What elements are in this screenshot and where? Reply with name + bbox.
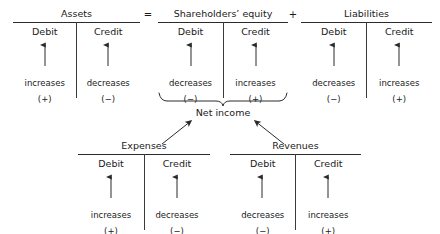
column-sign-credit: (+): [367, 94, 433, 104]
account-block-revenues: Revenues Debit decreases (−) Credit incr…: [230, 140, 361, 230]
account-title-expenses: Expenses: [78, 140, 210, 151]
column-effect-credit: decreases: [144, 210, 210, 220]
debit-column-liabilities: Debit decreases (−): [301, 26, 367, 98]
column-effect-credit: increases: [367, 78, 433, 88]
credit-column-expenses: Credit decreases (−): [144, 158, 210, 230]
net-income-label: Net income: [183, 107, 263, 118]
credit-column-revenues: Credit increases (+): [296, 158, 362, 230]
column-sign-credit: (+): [223, 94, 288, 104]
column-head-credit: Credit: [77, 26, 141, 37]
column-effect-debit: decreases: [230, 210, 296, 220]
column-head-credit: Credit: [367, 26, 433, 37]
column-head-debit: Debit: [78, 158, 144, 169]
account-title-revenues: Revenues: [230, 140, 361, 151]
equals-operator: =: [141, 9, 155, 20]
column-effect-credit: increases: [223, 78, 288, 88]
column-sign-credit: (−): [144, 226, 210, 234]
credit-column-shareholders-equity: Credit increases (+): [223, 26, 288, 98]
column-effect-debit: increases: [78, 210, 144, 220]
debit-column-expenses: Debit increases (+): [78, 158, 144, 230]
column-head-debit: Debit: [13, 26, 77, 37]
column-head-debit: Debit: [158, 26, 223, 37]
credit-column-assets: Credit decreases (−): [77, 26, 141, 98]
column-effect-debit: decreases: [301, 78, 367, 88]
debit-column-assets: Debit increases (+): [13, 26, 77, 98]
account-block-liabilities: Liabilities Debit decreases (−) Credit i…: [301, 8, 432, 98]
account-block-assets: Assets Debit increases (+) Credit decrea…: [13, 8, 140, 98]
column-sign-debit: (−): [230, 226, 296, 234]
column-head-credit: Credit: [144, 158, 210, 169]
column-sign-credit: (−): [77, 94, 141, 104]
column-effect-debit: increases: [13, 78, 77, 88]
column-sign-debit: (+): [13, 94, 77, 104]
account-block-expenses: Expenses Debit increases (+) Credit decr…: [78, 140, 210, 230]
debit-column-shareholders-equity: Debit decreases (−): [158, 26, 223, 98]
column-head-credit: Credit: [296, 158, 362, 169]
account-title-liabilities: Liabilities: [301, 8, 432, 19]
column-effect-debit: decreases: [158, 78, 223, 88]
column-effect-credit: decreases: [77, 78, 141, 88]
column-effect-credit: increases: [296, 210, 362, 220]
plus-operator: +: [286, 9, 300, 20]
column-sign-debit: (−): [301, 94, 367, 104]
credit-column-liabilities: Credit increases (+): [367, 26, 433, 98]
account-title-assets: Assets: [13, 8, 140, 19]
debit-column-revenues: Debit decreases (−): [230, 158, 296, 230]
column-sign-credit: (+): [296, 226, 362, 234]
column-sign-debit: (+): [78, 226, 144, 234]
account-title-shareholders-equity: Shareholders’ equity: [158, 8, 288, 19]
accounting-equation-diagram: Assets Debit increases (+) Credit decrea…: [0, 0, 440, 234]
column-head-debit: Debit: [230, 158, 296, 169]
column-head-credit: Credit: [223, 26, 288, 37]
account-block-shareholders-equity: Shareholders’ equity Debit decreases (−)…: [158, 8, 288, 98]
column-sign-debit: (−): [158, 94, 223, 104]
column-head-debit: Debit: [301, 26, 367, 37]
